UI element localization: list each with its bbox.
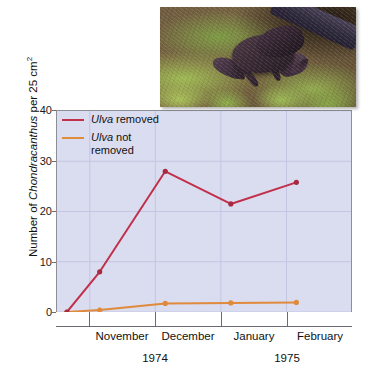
x-label-november: November [95, 330, 148, 342]
x-tick-mark [155, 312, 156, 326]
y-tick-40: 40 [28, 105, 52, 116]
legend-item-ulva-removed: Ulva removed [62, 113, 159, 126]
x-axis-line [56, 326, 352, 327]
x-tick-mark [287, 312, 288, 326]
y-tick-10: 10 [28, 257, 52, 268]
legend-label-ulva-not-removed: Ulva not removed [91, 131, 134, 157]
figure-container: Number of Chondracanthus per 25 cm2 40 3… [0, 0, 368, 375]
legend-swatch-red [62, 119, 84, 121]
x-group-label-1975: 1975 [274, 352, 300, 364]
series-ulva-not-removed [64, 300, 299, 312]
x-label-february: February [297, 330, 343, 342]
photo-grain [160, 7, 356, 107]
legend-item-ulva-not-removed: Ulva not removed [62, 131, 159, 157]
y-tick-0: 0 [28, 307, 52, 318]
y-axis-title-superscript: 2 [25, 57, 34, 61]
legend-species-italic: Ulva [91, 131, 113, 143]
gridlines-horizontal [57, 161, 351, 262]
y-tick-30: 30 [28, 156, 52, 167]
y-axis-tick-labels: 40 30 20 10 0 [22, 110, 52, 312]
legend-label-ulva-removed: Ulva removed [91, 113, 159, 126]
legend-swatch-orange [62, 137, 84, 139]
series-ulva-removed [64, 169, 299, 312]
chart-legend: Ulva removed Ulva not removed [62, 113, 159, 162]
crab-photograph [160, 7, 356, 107]
legend-label-rest: removed [113, 113, 159, 125]
x-tick-mark [89, 312, 90, 326]
x-label-december: December [161, 330, 214, 342]
x-label-january: January [234, 330, 275, 342]
x-group-label-1974: 1974 [142, 352, 168, 364]
y-tick-mark [52, 312, 56, 313]
y-tick-20: 20 [28, 206, 52, 217]
legend-species-italic: Ulva [91, 113, 113, 125]
x-tick-mark [221, 312, 222, 326]
